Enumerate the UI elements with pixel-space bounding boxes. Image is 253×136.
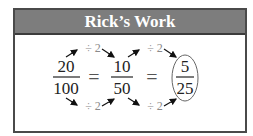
arrow-icon	[164, 99, 176, 106]
fraction-simplification-diagram: 20 100 = 10 50 = 5 25 ÷ 2 ÷ 2 ÷ 2 ÷ 2	[0, 0, 253, 136]
fraction-3: 5 25	[172, 55, 198, 101]
fraction-3-denominator: 25	[177, 79, 194, 98]
arrow-icon	[66, 50, 77, 57]
bottom-op-2: ÷ 2	[147, 99, 163, 113]
equals-sign-1: =	[88, 66, 99, 88]
arrow-icon	[66, 98, 77, 105]
arrow-icon	[102, 49, 114, 57]
arrow-icon	[128, 98, 139, 105]
top-op-2: ÷ 2	[147, 41, 163, 55]
arrow-icon	[128, 50, 139, 57]
fraction-2-numerator: 10	[114, 57, 131, 76]
arrow-icon	[164, 49, 176, 57]
fraction-2: 10 50	[111, 57, 133, 98]
equals-sign-2: =	[146, 66, 157, 88]
fraction-1-numerator: 20	[58, 57, 75, 76]
fraction-1: 20 100	[53, 57, 80, 98]
fraction-1-denominator: 100	[53, 79, 79, 98]
arrow-icon	[102, 99, 114, 106]
bottom-op-1: ÷ 2	[85, 99, 101, 113]
top-op-1: ÷ 2	[85, 41, 101, 55]
fraction-2-denominator: 50	[114, 79, 131, 98]
fraction-3-numerator: 5	[181, 57, 190, 76]
